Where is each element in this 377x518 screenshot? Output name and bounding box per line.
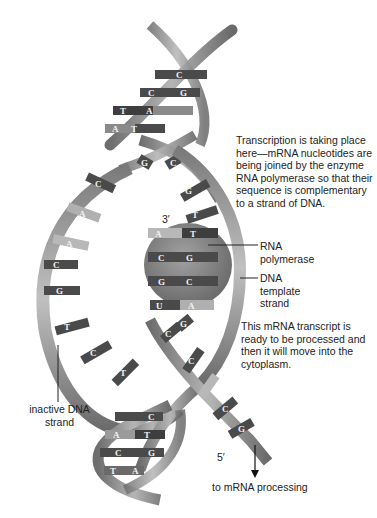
svg-text:T: T xyxy=(64,322,70,332)
rna-polymerase: A T C G G C U A xyxy=(144,223,232,311)
three-prime-label: 3′ xyxy=(162,213,170,226)
svg-text:G: G xyxy=(141,158,148,168)
svg-text:A: A xyxy=(188,301,195,311)
svg-text:C: C xyxy=(95,179,102,189)
svg-text:G: G xyxy=(186,253,193,263)
svg-text:C: C xyxy=(188,356,195,366)
svg-text:A: A xyxy=(66,239,73,249)
svg-text:G: G xyxy=(158,277,165,287)
svg-text:C: C xyxy=(53,260,60,270)
svg-text:A: A xyxy=(112,124,119,134)
svg-text:G: G xyxy=(238,424,245,434)
transcription-annotation: Transcription is taking place here—mRNA … xyxy=(236,134,373,209)
dna-template-strand-label: DNA template strand xyxy=(260,272,300,310)
svg-text:C: C xyxy=(115,448,122,458)
svg-text:C: C xyxy=(176,70,183,80)
svg-text:A: A xyxy=(146,106,153,116)
svg-text:C: C xyxy=(148,88,155,98)
svg-text:C: C xyxy=(222,404,229,414)
dna-helix-illustration: C C G T A A T G C xyxy=(0,0,377,518)
svg-text:C: C xyxy=(165,329,172,339)
svg-text:C: C xyxy=(170,158,177,168)
rna-polymerase-label: RNA polymerase xyxy=(260,240,314,265)
svg-text:G: G xyxy=(180,88,187,98)
svg-text:C: C xyxy=(90,348,97,358)
svg-text:A: A xyxy=(79,209,86,219)
inactive-dna-strand: C A A C G T C T xyxy=(43,168,180,430)
svg-text:A: A xyxy=(132,466,139,476)
svg-text:T: T xyxy=(110,466,116,476)
inactive-dna-strand-label: inactive DNA strand xyxy=(17,403,102,428)
to-mrna-processing-label: to mRNA processing xyxy=(212,481,308,494)
svg-text:T: T xyxy=(192,210,198,220)
svg-text:C: C xyxy=(186,277,193,287)
svg-text:T: T xyxy=(190,229,196,239)
svg-text:C: C xyxy=(148,412,155,422)
svg-text:T: T xyxy=(144,430,150,440)
svg-text:G: G xyxy=(148,448,155,458)
svg-text:A: A xyxy=(113,430,120,440)
svg-text:U: U xyxy=(156,301,163,311)
svg-text:G: G xyxy=(180,319,187,329)
svg-text:G: G xyxy=(56,286,63,296)
svg-text:C: C xyxy=(158,253,165,263)
five-prime-label: 5′ xyxy=(217,451,225,464)
top-helix: C C G T A A T xyxy=(105,25,232,145)
svg-text:G: G xyxy=(185,186,192,196)
mrna-transcript-annotation: This mRNA transcript is ready to be proc… xyxy=(241,320,365,370)
svg-text:A: A xyxy=(155,229,162,239)
transcription-diagram: C C G T A A T G C xyxy=(0,0,377,518)
svg-text:T: T xyxy=(120,368,126,378)
svg-text:T: T xyxy=(131,124,137,134)
svg-text:T: T xyxy=(120,106,126,116)
